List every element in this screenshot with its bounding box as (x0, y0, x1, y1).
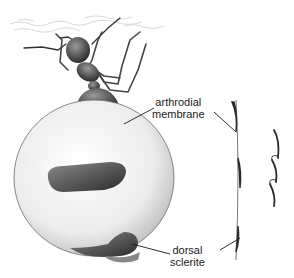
ant-head (66, 37, 90, 63)
label-line: membrane (152, 108, 205, 120)
label-arthrodial-membrane: arthrodial membrane (152, 96, 205, 120)
label-line: dorsal (170, 244, 205, 256)
label-line: sclerite (170, 256, 205, 268)
leader-line-arthrodial-detail (214, 112, 236, 132)
label-line: arthrodial (152, 96, 205, 108)
leader-line-dorsal (132, 244, 170, 254)
honeypot-ant-illustration (0, 0, 294, 278)
cross-section-collapsed (270, 130, 279, 206)
cross-section-distended (232, 100, 241, 260)
nest-ceiling-texture (10, 16, 164, 32)
label-dorsal-sclerite: dorsal sclerite (170, 244, 205, 268)
